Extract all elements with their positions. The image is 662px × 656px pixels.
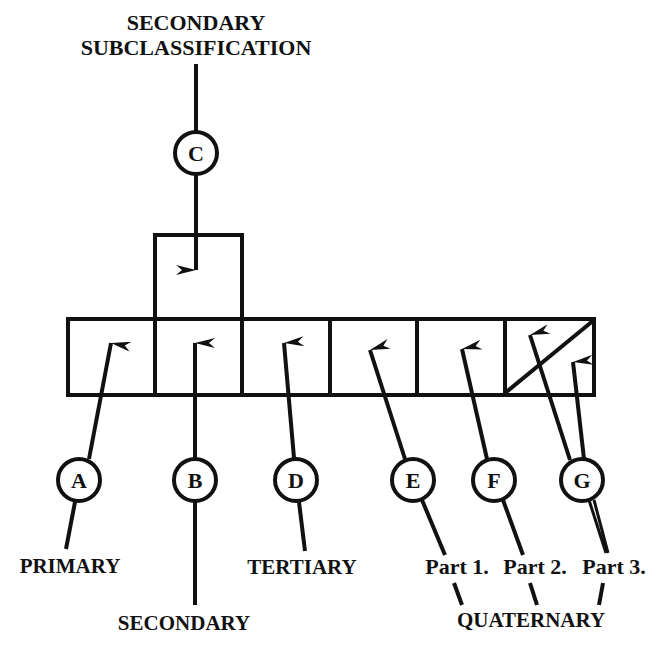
connector-f-bottom: [503, 500, 523, 555]
classification-diagram: SECONDARY SUBCLASSIFICATION C: [0, 0, 662, 656]
circle-c-label: C: [188, 141, 204, 166]
arrow-d: [284, 343, 294, 458]
circle-b-label: B: [188, 468, 203, 493]
circle-e-label: E: [406, 468, 421, 493]
connector-quaternary-1: [454, 583, 462, 605]
circle-c: C: [175, 132, 217, 174]
connector-e-bottom: [422, 500, 445, 555]
code-cells: [68, 319, 594, 395]
label-quaternary: QUATERNARY: [457, 608, 605, 632]
circle-g-label: G: [573, 468, 590, 493]
arrow-e: [370, 350, 405, 459]
label-primary: PRIMARY: [20, 554, 121, 578]
label-part-2: Part 2.: [503, 554, 567, 579]
label-secondary: SECONDARY: [118, 611, 250, 635]
circle-b: B: [174, 459, 216, 501]
circle-a: A: [58, 459, 100, 501]
connector-quaternary-2: [530, 583, 537, 605]
arrow-a: [89, 343, 111, 459]
title-line-2: SUBCLASSIFICATION: [81, 35, 312, 60]
cell-diagonal: [505, 320, 594, 393]
secondary-subclassification-box: [155, 235, 242, 319]
title-line-1: SECONDARY: [127, 10, 266, 35]
connector-quaternary-3: [599, 583, 603, 605]
connector-d-bottom: [299, 502, 305, 551]
circle-f: F: [473, 459, 515, 501]
label-part-3: Part 3.: [582, 554, 646, 579]
arrow-g-2: [573, 362, 584, 459]
connector-a-bottom: [66, 502, 75, 549]
circle-e: E: [392, 459, 434, 501]
circle-d-label: D: [288, 468, 304, 493]
label-tertiary: TERTIARY: [247, 555, 356, 579]
circle-g: G: [561, 459, 603, 501]
arrow-f: [462, 349, 487, 459]
circle-f-label: F: [487, 468, 500, 493]
circle-a-label: A: [71, 468, 87, 493]
circle-d: D: [275, 459, 317, 501]
label-part-1: Part 1.: [425, 554, 489, 579]
